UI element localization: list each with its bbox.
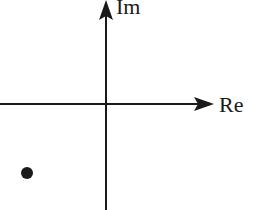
imaginary-axis-label: Im [116, 0, 140, 19]
complex-plane-diagram: Re Im [0, 0, 253, 210]
real-axis-label: Re [219, 92, 243, 117]
plotted-point [21, 167, 33, 179]
complex-plane-svg: Re Im [0, 0, 253, 210]
